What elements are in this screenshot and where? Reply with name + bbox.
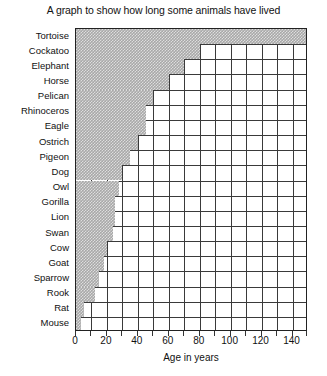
bar xyxy=(76,241,107,256)
x-axis-tick-label: 0 xyxy=(72,336,78,346)
bar xyxy=(76,29,307,44)
bar xyxy=(76,302,84,317)
y-axis-label: Pelican xyxy=(38,91,69,101)
grid-line-horizontal xyxy=(76,302,306,303)
bar xyxy=(76,211,115,226)
grid-line-vertical xyxy=(215,29,216,330)
bar xyxy=(76,317,81,331)
y-axis-label: Sparrow xyxy=(34,273,69,283)
y-axis-label: Cockatoo xyxy=(29,46,69,56)
bar xyxy=(76,120,146,135)
bar xyxy=(76,90,153,105)
y-axis-label: Eagle xyxy=(45,121,69,131)
y-axis-label: Swan xyxy=(45,228,69,238)
y-axis-label: Rhinoceros xyxy=(21,106,69,116)
chart-container: A graph to show how long some animals ha… xyxy=(0,0,327,376)
bar xyxy=(76,226,113,241)
y-axis-label: Cow xyxy=(50,243,69,253)
grid-line-vertical xyxy=(246,29,247,330)
bar xyxy=(76,165,122,180)
plot-area xyxy=(75,28,307,331)
grid-line-vertical xyxy=(277,29,278,330)
y-axis-label: Rook xyxy=(47,288,69,298)
grid-line-horizontal xyxy=(76,287,306,288)
bar xyxy=(76,256,104,271)
grid-line-vertical xyxy=(200,29,201,330)
bar xyxy=(76,44,200,59)
bar xyxy=(76,135,138,150)
y-axis-label: Goat xyxy=(48,258,69,268)
grid-line-horizontal xyxy=(76,256,306,257)
grid-line-vertical xyxy=(184,29,185,330)
bar xyxy=(76,287,95,302)
y-axis-label: Pigeon xyxy=(39,152,69,162)
y-axis-label: Elephant xyxy=(31,61,69,71)
y-axis-label: Lion xyxy=(51,212,69,222)
y-axis-label: Gorilla xyxy=(42,197,69,207)
y-axis-category-labels: TortoiseCockatooElephantHorsePelicanRhin… xyxy=(0,28,72,331)
bar xyxy=(76,196,115,211)
x-axis-tick-label: 60 xyxy=(162,336,173,346)
y-axis-label: Rat xyxy=(54,303,69,313)
x-axis-tick-labels: 020406080100120140 xyxy=(0,336,327,350)
grid-line-horizontal xyxy=(76,241,306,242)
plot-wrapper xyxy=(75,28,307,331)
bar xyxy=(76,271,99,286)
x-axis-tick-label: 80 xyxy=(193,336,204,346)
grid-line-vertical xyxy=(231,29,232,330)
grid-line-horizontal xyxy=(76,271,306,272)
bar xyxy=(76,74,169,89)
chart-title: A graph to show how long some animals ha… xyxy=(0,4,327,16)
y-axis-label: Horse xyxy=(44,76,69,86)
y-axis-label: Dog xyxy=(52,167,69,177)
y-axis-label: Mouse xyxy=(40,318,69,328)
y-axis-label: Tortoise xyxy=(36,31,69,41)
x-axis-title: Age in years xyxy=(75,352,307,363)
x-axis-tick-label: 120 xyxy=(252,336,269,346)
grid-line-horizontal xyxy=(76,317,306,318)
x-axis-tick-label: 40 xyxy=(131,336,142,346)
x-axis-tick-label: 140 xyxy=(283,336,300,346)
bar xyxy=(76,105,146,120)
bar xyxy=(76,150,130,165)
bar xyxy=(76,59,184,74)
x-axis-tick-label: 100 xyxy=(221,336,238,346)
grid-line-vertical xyxy=(262,29,263,330)
x-axis-tick-label: 20 xyxy=(100,336,111,346)
grid-line-vertical xyxy=(293,29,294,330)
y-axis-label: Ostrich xyxy=(39,137,69,147)
bar xyxy=(76,181,119,196)
y-axis-label: Owl xyxy=(53,182,69,192)
